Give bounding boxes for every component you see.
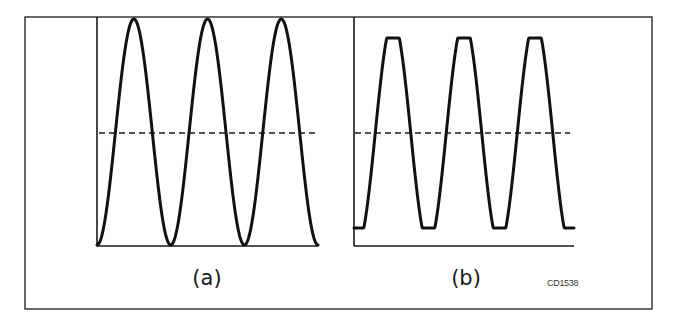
outer-frame: [25, 17, 652, 309]
panel-a: (a): [97, 17, 318, 290]
figure-code: CD1538: [547, 278, 579, 288]
panel-a-label: (a): [192, 266, 221, 290]
panel-b-label: (b): [451, 266, 481, 290]
waveform-comparison-figure: (a) (b) CD1538: [0, 0, 677, 323]
panel-b: (b): [354, 17, 574, 290]
panel-a-sine-wave: [97, 19, 318, 245]
